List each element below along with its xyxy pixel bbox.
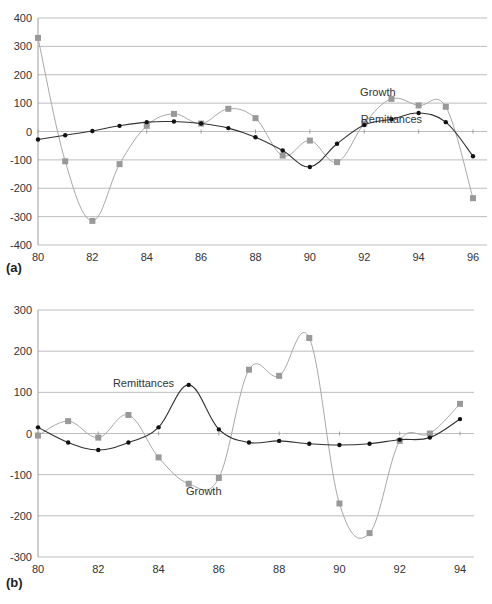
- remittances-dot-marker: [117, 124, 121, 128]
- y-tick-label: -100: [10, 154, 32, 166]
- y-tick-label: 0: [26, 126, 32, 138]
- remittances-dot-marker: [428, 435, 432, 439]
- growth-square-marker: [216, 475, 222, 481]
- remittances-dot-marker: [172, 119, 176, 123]
- x-tick-label: 90: [333, 563, 345, 575]
- panel-label-a: (a): [6, 260, 22, 275]
- remittances-dot-marker: [145, 120, 149, 124]
- y-tick-label: 400: [14, 12, 32, 24]
- growth-series-line: [38, 332, 460, 538]
- growth-square-marker: [276, 373, 282, 379]
- growth-series-label: Growth: [360, 86, 395, 98]
- remittances-dot-marker: [156, 425, 160, 429]
- growth-square-marker: [89, 218, 95, 224]
- growth-square-marker: [62, 158, 68, 164]
- y-tick-label: -300: [10, 551, 32, 563]
- growth-square-marker: [416, 102, 422, 108]
- remittances-dot-marker: [444, 120, 448, 124]
- x-tick-label: 84: [141, 251, 153, 263]
- remittances-dot-marker: [96, 448, 100, 452]
- remittances-dot-marker: [66, 440, 70, 444]
- remittances-dot-marker: [367, 442, 371, 446]
- remittances-dot-marker: [217, 427, 221, 431]
- growth-square-marker: [225, 106, 231, 112]
- growth-square-marker: [253, 115, 259, 121]
- remittances-dot-marker: [90, 129, 94, 133]
- remittances-dot-marker: [63, 133, 67, 137]
- x-tick-label: 82: [92, 563, 104, 575]
- x-tick-label: 86: [213, 563, 225, 575]
- x-tick-label: 90: [304, 251, 316, 263]
- y-tick-label: -200: [10, 182, 32, 194]
- remittances-dot-marker: [187, 383, 191, 387]
- x-tick-label: 94: [454, 563, 466, 575]
- x-tick-label: 96: [467, 251, 479, 263]
- growth-square-marker: [35, 433, 41, 439]
- x-tick-label: 86: [195, 251, 207, 263]
- growth-square-marker: [307, 138, 313, 144]
- growth-square-marker: [65, 418, 71, 424]
- remittances-dot-marker: [458, 417, 462, 421]
- x-tick-label: 88: [249, 251, 261, 263]
- growth-square-marker: [156, 454, 162, 460]
- y-tick-label: 300: [14, 40, 32, 52]
- y-tick-label: -400: [10, 239, 32, 251]
- growth-series-label: Growth: [186, 485, 221, 497]
- x-tick-label: 92: [394, 563, 406, 575]
- remittances-dot-marker: [398, 437, 402, 441]
- growth-square-marker: [336, 500, 342, 506]
- y-tick-label: 300: [14, 304, 32, 316]
- remittances-dot-marker: [471, 154, 475, 158]
- x-tick-label: 82: [86, 251, 98, 263]
- x-tick-label: 92: [358, 251, 370, 263]
- remittances-dot-marker: [337, 443, 341, 447]
- remittances-series-label: Remittances: [361, 113, 423, 125]
- growth-square-marker: [470, 195, 476, 201]
- x-tick-label: 94: [413, 251, 425, 263]
- growth-square-marker: [280, 153, 286, 159]
- panel-label-b: (b): [6, 575, 23, 590]
- y-tick-label: 0: [26, 428, 32, 440]
- growth-square-marker: [171, 111, 177, 117]
- remittances-dot-marker: [36, 137, 40, 141]
- growth-square-marker: [125, 412, 131, 418]
- growth-square-marker: [443, 104, 449, 110]
- growth-square-marker: [95, 435, 101, 441]
- remittances-dot-marker: [253, 135, 257, 139]
- y-tick-label: -300: [10, 211, 32, 223]
- chart-panel-a: 4003002001000-100-200-300-40080828486889…: [10, 12, 487, 263]
- remittances-dot-marker: [277, 439, 281, 443]
- remittances-dot-marker: [247, 440, 251, 444]
- x-tick-label: 84: [152, 563, 164, 575]
- remittances-dot-marker: [308, 165, 312, 169]
- remittances-dot-marker: [126, 440, 130, 444]
- remittances-series-label: Remittances: [113, 377, 175, 389]
- remittances-dot-marker: [307, 442, 311, 446]
- x-tick-label: 80: [32, 251, 44, 263]
- growth-square-marker: [117, 161, 123, 167]
- growth-square-marker: [334, 159, 340, 165]
- y-tick-label: 100: [14, 97, 32, 109]
- y-tick-label: -100: [10, 469, 32, 481]
- x-tick-label: 80: [32, 563, 44, 575]
- remittances-dot-marker: [226, 126, 230, 130]
- growth-square-marker: [367, 530, 373, 536]
- y-tick-label: 100: [14, 386, 32, 398]
- chart-canvas: 4003002001000-100-200-300-40080828486889…: [0, 0, 492, 604]
- growth-square-marker: [306, 335, 312, 341]
- y-tick-label: 200: [14, 345, 32, 357]
- growth-square-marker: [246, 367, 252, 373]
- chart-panel-b: 3002001000-100-200-3008082848688909294Re…: [10, 304, 474, 575]
- y-tick-label: 200: [14, 69, 32, 81]
- remittances-dot-marker: [335, 142, 339, 146]
- remittances-dot-marker: [199, 121, 203, 125]
- x-tick-label: 88: [273, 563, 285, 575]
- y-tick-label: -200: [10, 510, 32, 522]
- remittances-dot-marker: [280, 148, 284, 152]
- remittances-series-line: [38, 385, 460, 450]
- remittances-dot-marker: [36, 425, 40, 429]
- growth-square-marker: [35, 35, 41, 41]
- growth-square-marker: [457, 401, 463, 407]
